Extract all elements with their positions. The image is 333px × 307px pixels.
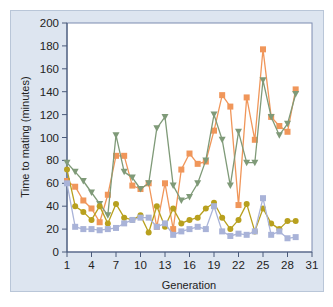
data-point (138, 215, 144, 221)
data-point (170, 205, 176, 211)
x-tick-label: 28 (281, 259, 294, 271)
data-point (113, 225, 119, 231)
y-axis: 020406080100120140160180200 (40, 17, 67, 258)
data-point (80, 226, 86, 232)
data-point (219, 92, 225, 98)
x-tick-label: 10 (134, 259, 147, 271)
y-tick-label: 100 (40, 132, 59, 144)
data-point (64, 167, 70, 173)
y-tick-label: 180 (40, 40, 59, 52)
data-point (285, 235, 291, 241)
y-tick-label: 140 (40, 86, 59, 98)
data-point (113, 201, 119, 207)
x-tick-label: 16 (183, 259, 196, 271)
x-axis-title: Generation (162, 279, 216, 291)
data-point (276, 228, 282, 234)
data-point (89, 226, 95, 232)
data-point (260, 195, 266, 201)
x-tick-label: 4 (88, 259, 95, 271)
data-point (105, 220, 111, 226)
data-point (236, 202, 242, 208)
data-point (195, 161, 201, 167)
x-tick-label: 22 (232, 259, 245, 271)
data-point (252, 228, 258, 234)
data-point (162, 180, 168, 186)
data-point (187, 226, 193, 232)
data-point (80, 209, 86, 215)
data-point (195, 215, 201, 221)
data-point (97, 203, 103, 209)
data-point (211, 203, 217, 209)
x-tick-label: 19 (208, 259, 221, 271)
data-point (170, 232, 176, 238)
y-tick-label: 40 (46, 200, 59, 212)
y-tick-label: 80 (46, 154, 59, 166)
data-point (121, 215, 127, 221)
data-point (293, 234, 299, 240)
data-point (244, 201, 250, 207)
data-point (203, 226, 209, 232)
y-tick-label: 200 (40, 17, 59, 29)
data-point (203, 205, 209, 211)
data-point (129, 183, 135, 189)
data-point (285, 129, 291, 135)
data-point (285, 218, 291, 224)
y-tick-label: 20 (46, 223, 59, 235)
data-point (146, 215, 152, 221)
data-point (178, 167, 184, 173)
data-point (89, 205, 95, 211)
data-point (227, 226, 233, 232)
data-point (178, 220, 184, 226)
x-tick-label: 25 (257, 259, 270, 271)
data-point (178, 228, 184, 234)
data-point (244, 94, 250, 100)
data-point (276, 123, 282, 129)
data-point (236, 217, 242, 223)
x-tick-label: 13 (159, 259, 172, 271)
data-point (129, 217, 135, 223)
data-point (89, 217, 95, 223)
data-point (97, 227, 103, 233)
y-tick-label: 0 (53, 246, 59, 258)
data-point (154, 203, 160, 209)
data-point (121, 153, 127, 159)
data-point (121, 220, 127, 226)
data-point (105, 226, 111, 232)
data-point (260, 46, 266, 52)
data-point (162, 220, 168, 226)
line-chart: 020406080100120140160180200 147101316192… (0, 0, 333, 307)
data-point (72, 184, 78, 190)
x-tick-label: 1 (64, 259, 70, 271)
data-point (195, 224, 201, 230)
data-point (293, 218, 299, 224)
y-axis-title: Time to mating (minutes) (19, 76, 31, 197)
data-point (187, 151, 193, 157)
data-point (80, 197, 86, 203)
data-point (72, 203, 78, 209)
data-point (97, 219, 103, 225)
y-tick-label: 60 (46, 177, 59, 189)
data-point (64, 180, 70, 186)
data-point (236, 231, 242, 237)
data-point (154, 224, 160, 230)
y-tick-label: 120 (40, 109, 59, 121)
x-tick-label: 7 (113, 259, 119, 271)
data-point (72, 224, 78, 230)
y-tick-label: 160 (40, 63, 59, 75)
x-tick-label: 31 (306, 259, 319, 271)
data-point (227, 104, 233, 110)
data-point (187, 217, 193, 223)
data-point (219, 215, 225, 221)
x-axis: 1471013161922252831 (64, 252, 319, 271)
data-point (244, 232, 250, 238)
data-point (268, 232, 274, 238)
data-point (146, 230, 152, 236)
data-point (219, 228, 225, 234)
data-point (227, 233, 233, 239)
